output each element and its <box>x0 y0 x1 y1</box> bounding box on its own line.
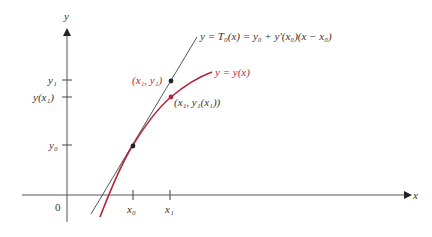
point-x0-y0 <box>131 144 136 149</box>
tangent-line-label: y = T₀(x) = y₀ + y′(x₀)(x − x₀) <box>199 30 332 43</box>
curve-label: y = y(x) <box>214 66 250 79</box>
tangent-line-diagram: y x 0 x₀ x₁ y₁ y(x₁) y₀ y = T₀(x) = y₀ +… <box>0 0 432 237</box>
x-axis-label: x <box>412 189 418 201</box>
tangent-line <box>91 37 197 214</box>
point-x1-yx1 <box>169 95 174 100</box>
y0-tick-label: y₀ <box>48 139 58 151</box>
origin-label: 0 <box>55 201 61 213</box>
y-axis-label: y <box>63 10 69 22</box>
point-x1-yx1-label: (x₁, y₁(x₁)) <box>174 96 221 109</box>
point-x1-y1 <box>169 79 174 84</box>
point-x1-y1-label: (x₁, y₁) <box>132 74 163 87</box>
x1-tick-label: x₁ <box>164 203 174 215</box>
y1-tick-label: y₁ <box>47 74 57 86</box>
y-x1-tick-label: y(x₁) <box>32 91 54 104</box>
x0-tick-label: x₀ <box>126 203 136 215</box>
